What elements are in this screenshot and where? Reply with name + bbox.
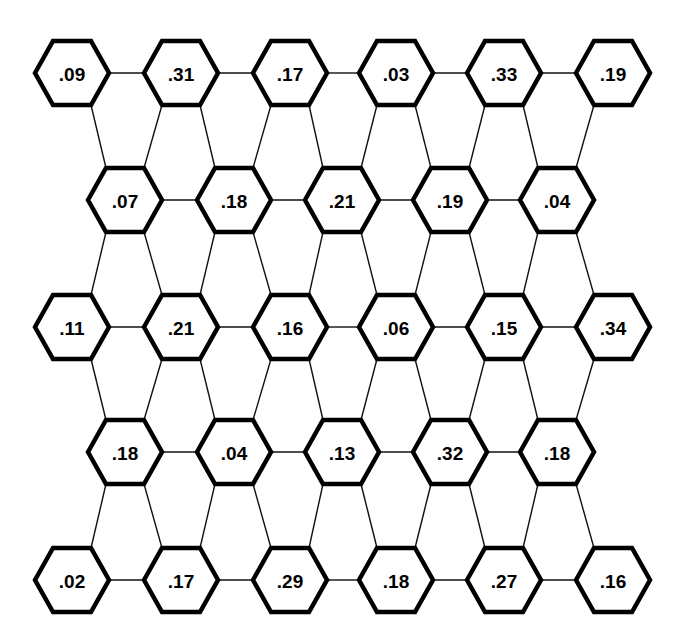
diagonal-edge — [253, 484, 271, 548]
node-value: .17 — [168, 571, 194, 592]
node-value: .11 — [59, 318, 85, 339]
node-value: .04 — [221, 443, 248, 464]
diagonal-edge — [144, 232, 162, 295]
hex-node: .21 — [305, 168, 379, 232]
node-value: .15 — [491, 318, 518, 339]
diagonal-edge — [576, 105, 594, 168]
diagonal-edge — [576, 484, 594, 548]
hex-node: .13 — [305, 420, 379, 484]
diagonal-edge — [576, 232, 594, 295]
diagonal-edge — [523, 484, 538, 548]
hex-lattice-diagram: .09.31.17.03.33.19.07.18.21.19.04.11.21.… — [0, 0, 688, 644]
diagonal-edge — [309, 484, 323, 548]
hex-node: .16 — [576, 548, 650, 612]
diagonal-edge — [469, 484, 485, 548]
hex-node: .17 — [144, 548, 218, 612]
diagonal-edge — [361, 359, 377, 420]
node-value: .19 — [437, 191, 463, 212]
diagonal-edge — [415, 232, 431, 295]
hex-node: .21 — [144, 295, 218, 359]
diagonal-edge — [200, 359, 215, 420]
hex-node: .27 — [467, 548, 541, 612]
node-value: .07 — [112, 191, 138, 212]
diagonal-edge — [91, 232, 106, 295]
node-value: .18 — [112, 443, 138, 464]
diagonal-edge — [361, 105, 377, 168]
hex-node: .18 — [359, 548, 433, 612]
node-value: .18 — [221, 191, 247, 212]
node-value: .21 — [329, 191, 356, 212]
node-value: .16 — [277, 318, 303, 339]
node-value: .18 — [544, 443, 570, 464]
node-value: .29 — [277, 571, 303, 592]
hex-node: .03 — [359, 41, 433, 105]
hex-node: .17 — [253, 41, 327, 105]
node-value: .16 — [600, 571, 626, 592]
hex-node: .29 — [253, 548, 327, 612]
diagonal-edge — [469, 232, 485, 295]
hex-node: .32 — [413, 420, 487, 484]
diagonal-edge — [309, 105, 323, 168]
hex-node: .19 — [576, 41, 650, 105]
node-value: .21 — [168, 318, 195, 339]
node-value: .03 — [383, 64, 409, 85]
diagonal-edge — [469, 359, 485, 420]
hex-node: .31 — [144, 41, 218, 105]
node-value: .34 — [600, 318, 627, 339]
diagonal-edge — [253, 232, 271, 295]
hex-node: .04 — [197, 420, 271, 484]
diagonal-edge — [91, 105, 106, 168]
diagonal-edge — [144, 105, 162, 168]
node-value: .13 — [329, 443, 355, 464]
diagonal-edge — [309, 232, 323, 295]
node-value: .18 — [383, 571, 409, 592]
diagonal-edge — [253, 105, 271, 168]
hex-node: .16 — [253, 295, 327, 359]
diagonal-edge — [523, 105, 538, 168]
hex-node: .18 — [197, 168, 271, 232]
node-value: .02 — [59, 571, 85, 592]
diagonal-edge — [576, 359, 594, 420]
hex-node: .34 — [576, 295, 650, 359]
diagonal-edge — [200, 105, 215, 168]
diagonal-edge — [144, 484, 162, 548]
node-value: .31 — [168, 64, 195, 85]
hex-node: .18 — [520, 420, 594, 484]
hex-node: .07 — [88, 168, 162, 232]
diagonal-edge — [361, 232, 377, 295]
hex-node: .09 — [35, 41, 109, 105]
diagonal-edge — [469, 105, 485, 168]
node-value: .19 — [600, 64, 626, 85]
diagonal-edge — [415, 359, 431, 420]
diagonal-edge — [91, 359, 106, 420]
diagonal-edge — [523, 359, 538, 420]
diagonal-edge — [91, 484, 106, 548]
diagonal-edge — [309, 359, 323, 420]
hex-node: .19 — [413, 168, 487, 232]
diagonal-edge — [253, 359, 271, 420]
hex-node: .06 — [359, 295, 433, 359]
diagonal-edge — [200, 484, 215, 548]
diagonal-edge — [523, 232, 538, 295]
hex-node: .02 — [35, 548, 109, 612]
node-value: .33 — [491, 64, 517, 85]
hex-node: .11 — [35, 295, 109, 359]
node-value: .09 — [59, 64, 85, 85]
node-value: .06 — [383, 318, 409, 339]
node-value: .04 — [544, 191, 571, 212]
node-value: .17 — [277, 64, 303, 85]
hex-node: .18 — [88, 420, 162, 484]
node-value: .27 — [491, 571, 517, 592]
diagonal-edge — [415, 484, 431, 548]
diagonal-edge — [144, 359, 162, 420]
diagonal-edge — [200, 232, 215, 295]
hex-node: .33 — [467, 41, 541, 105]
node-value: .32 — [437, 443, 463, 464]
hex-node: .15 — [467, 295, 541, 359]
diagonal-edge — [415, 105, 431, 168]
diagonal-edge — [361, 484, 377, 548]
hex-node: .04 — [520, 168, 594, 232]
